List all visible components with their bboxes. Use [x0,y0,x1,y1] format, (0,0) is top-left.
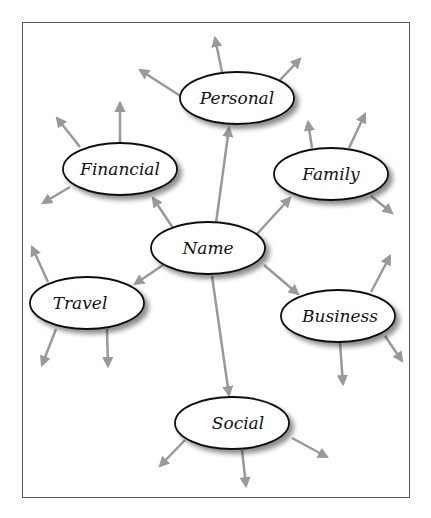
edge-name-personal [216,128,229,223]
node-label-business: Business [301,306,378,326]
node-social[interactable]: Social [175,397,289,449]
node-label-financial: Financial [79,159,160,179]
node-financial[interactable]: Financial [63,143,177,195]
edge-name-social [212,276,229,395]
node-label-personal: Personal [199,88,274,108]
edge-name-travel [135,265,163,284]
node-name-center[interactable]: Name [151,222,265,274]
edge-name-financial [153,198,173,228]
node-label-social: Social [212,413,264,433]
node-travel[interactable]: Travel [30,277,144,329]
edge-name-family [257,198,290,234]
node-personal[interactable]: Personal [180,72,294,124]
node-label-travel: Travel [53,293,108,313]
mind-map-canvas: Personal Financial Family Name Travel Bu… [0,0,431,518]
node-label-family: Family [301,164,360,184]
edge-name-business [264,265,298,294]
node-label-name: Name [181,238,233,258]
node-family[interactable]: Family [274,148,388,200]
node-business[interactable]: Business [281,290,395,342]
